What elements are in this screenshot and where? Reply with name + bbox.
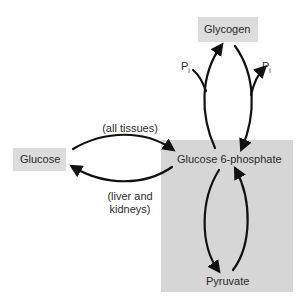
pi-right-branch — [251, 68, 264, 95]
pathway-arrows — [0, 0, 308, 307]
g6p-to-glucose-arrow — [73, 167, 172, 181]
g6p-to-pyruvate-arrow — [205, 170, 219, 270]
glucose-to-g6p-arrow — [73, 135, 172, 149]
pyruvate-to-g6p-arrow — [233, 170, 248, 270]
glycogen-to-g6p-arrow — [235, 46, 252, 148]
g6p-to-glycogen-arrow — [204, 46, 221, 148]
pi-left-branch — [193, 70, 206, 91]
